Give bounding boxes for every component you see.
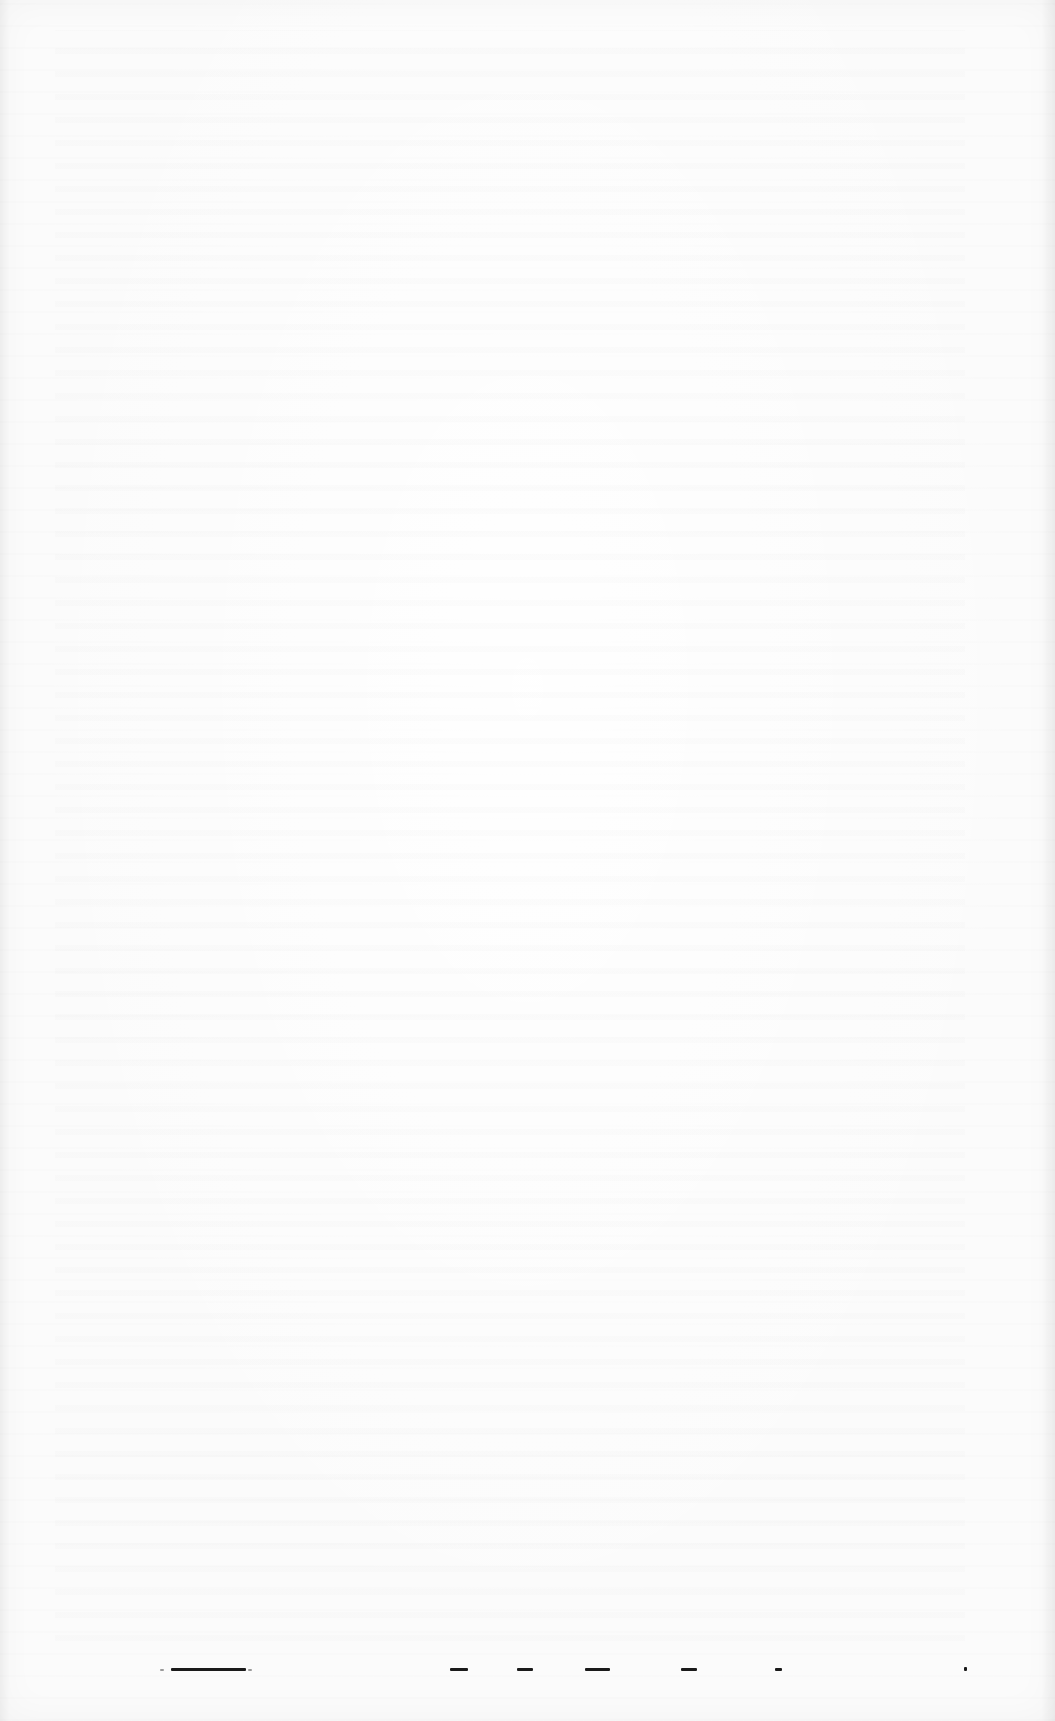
page-edge-shadow-left	[0, 0, 10, 1721]
cropped-text-line-fragments	[0, 1667, 1055, 1673]
ink-stroke-fragment	[171, 1668, 246, 1671]
ink-stroke-fragment	[964, 1667, 967, 1671]
bleed-through-texture	[55, 30, 965, 1641]
ink-stroke-fragment	[517, 1668, 533, 1671]
page-edge-shadow-right	[1041, 0, 1055, 1721]
ink-stroke-fragment	[450, 1668, 468, 1671]
ink-stroke-fragment	[160, 1669, 164, 1671]
ink-stroke-fragment	[775, 1668, 782, 1671]
scanned-page	[0, 0, 1055, 1721]
ink-stroke-fragment	[585, 1668, 610, 1671]
ink-stroke-fragment	[248, 1669, 252, 1671]
ink-stroke-fragment	[681, 1668, 697, 1671]
